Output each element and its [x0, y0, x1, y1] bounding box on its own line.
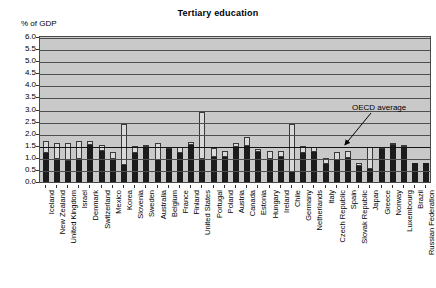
bar-segment-private [345, 151, 351, 158]
bar-group[interactable] [155, 35, 161, 182]
bar-segment-public [356, 166, 362, 182]
tertiary-education-chart: Tertiary education % of GDP 6.05.55.04.5… [0, 0, 436, 288]
bar-group[interactable] [211, 35, 217, 182]
bar-group[interactable] [289, 35, 295, 182]
bar-group[interactable] [177, 35, 183, 182]
x-tick-label: Ireland [283, 190, 290, 213]
x-tick-label: United Kingdom [70, 190, 77, 243]
x-tick-mark [425, 185, 426, 188]
oecd-average-label: OECD average [352, 103, 406, 112]
bar-segment-public [132, 153, 138, 182]
bar-group[interactable] [323, 35, 329, 182]
bar-group[interactable] [334, 35, 340, 182]
bar-segment-public [211, 157, 217, 182]
bar-group[interactable] [311, 35, 317, 182]
bar-group[interactable] [255, 35, 261, 182]
x-tick-label: Iceland [48, 190, 55, 214]
bar-segment-public [289, 172, 295, 182]
bar-group[interactable] [54, 35, 60, 182]
gridline [40, 86, 430, 87]
bar-group[interactable] [244, 35, 250, 182]
bar-segment-private [244, 137, 250, 145]
bar-group[interactable] [267, 35, 273, 182]
x-tick-mark [403, 185, 404, 188]
x-tick-mark [190, 185, 191, 188]
bar-group[interactable] [87, 35, 93, 182]
x-tick-mark [67, 185, 68, 188]
bar-segment-public [99, 151, 105, 182]
bar-group[interactable] [278, 35, 284, 182]
bar-segment-private [54, 143, 60, 159]
bar-segment-public [390, 145, 396, 182]
y-tick-label: 2.5 [14, 117, 36, 126]
bar-segment-public [244, 146, 250, 182]
bar-segment-private [211, 148, 217, 156]
y-tick-mark [36, 37, 39, 38]
y-tick-mark [36, 61, 39, 62]
y-tick-mark [36, 122, 39, 123]
bar-segment-public [188, 145, 194, 182]
bar-segment-private [76, 141, 82, 159]
bar-group[interactable] [423, 35, 429, 182]
bar-segment-public [255, 152, 261, 182]
x-tick-mark [336, 185, 337, 188]
x-tick-mark [168, 185, 169, 188]
bar-group[interactable] [222, 35, 228, 182]
x-tick-mark [246, 185, 247, 188]
bar-segment-public [300, 153, 306, 182]
bar-group[interactable] [110, 35, 116, 182]
bar-group[interactable] [300, 35, 306, 182]
bar-group[interactable] [65, 35, 71, 182]
bar-group[interactable] [412, 35, 418, 182]
bar-group[interactable] [121, 35, 127, 182]
bar-group[interactable] [143, 35, 149, 182]
y-tick-label: 0.0 [14, 177, 36, 186]
y-tick-mark [36, 110, 39, 111]
x-tick-label: France [182, 190, 189, 213]
x-tick-label: Belgium [171, 190, 178, 217]
gridline [40, 135, 430, 136]
y-tick-label: 5.5 [14, 44, 36, 53]
bar-group[interactable] [345, 35, 351, 182]
bar-segment-public [323, 164, 329, 182]
bar-segment-public [87, 145, 93, 182]
bar-group[interactable] [199, 35, 205, 182]
bar-group[interactable] [188, 35, 194, 182]
x-tick-label: Poland [227, 190, 234, 213]
x-tick-mark [257, 185, 258, 188]
gridline [40, 74, 430, 75]
x-tick-mark [325, 185, 326, 188]
x-tick-mark [269, 185, 270, 188]
y-tick-label: 4.0 [14, 80, 36, 89]
x-tick-label: Luxembourg [406, 190, 413, 232]
bar-group[interactable] [166, 35, 172, 182]
x-tick-label: Germany [305, 190, 312, 221]
x-tick-label: Slovenia [137, 190, 144, 219]
gridline [40, 38, 430, 39]
y-tick-mark [36, 85, 39, 86]
x-tick-mark [358, 185, 359, 188]
y-tick-label: 5.0 [14, 56, 36, 65]
chart-title: Tertiary education [0, 8, 436, 18]
bar-group[interactable] [132, 35, 138, 182]
x-tick-label: United States [204, 190, 211, 235]
x-tick-label: Estonia [260, 190, 267, 215]
bar-group[interactable] [76, 35, 82, 182]
y-tick-label: 4.5 [14, 68, 36, 77]
bar-segment-private [267, 151, 273, 159]
bar-segment-public [423, 163, 429, 182]
bar-segment-private [289, 124, 295, 172]
x-tick-mark [302, 185, 303, 188]
bar-group[interactable] [233, 35, 239, 182]
x-tick-label: Norway [395, 190, 402, 215]
bar-segment-public [311, 152, 317, 182]
bar-group[interactable] [43, 35, 49, 182]
y-tick-mark [36, 73, 39, 74]
y-tick-label: 2.0 [14, 129, 36, 138]
bar-group[interactable] [99, 35, 105, 182]
x-tick-mark [392, 185, 393, 188]
bar-segment-public [143, 147, 149, 182]
x-tick-mark [123, 185, 124, 188]
x-tick-label: Israel [81, 190, 88, 208]
y-tick-label: 1.5 [14, 141, 36, 150]
